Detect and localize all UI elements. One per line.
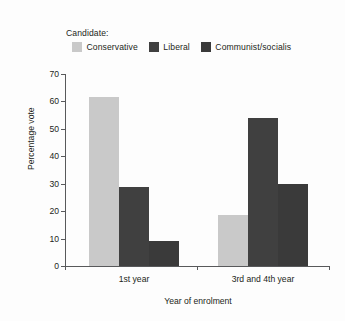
x-label-1st-year: 1st year <box>119 274 150 284</box>
bar-3rd-4th-year-communist-socialist <box>278 184 308 266</box>
y-tick-label-60: 60 <box>49 96 59 106</box>
legend-entry-communist-socialist: Communist/socialis <box>201 42 291 52</box>
legend-swatch-liberal <box>149 42 159 52</box>
bar-chart-figure: Candidate: Conservative Liberal Communis… <box>0 0 345 321</box>
y-axis-spine <box>65 74 66 267</box>
x-tick-middle <box>197 266 198 270</box>
legend-entry-liberal: Liberal <box>149 42 190 52</box>
legend-swatch-communist-socialist <box>201 42 211 52</box>
x-label-3rd-4th-year: 3rd and 4th year <box>232 274 295 284</box>
x-axis-title: Year of enrolment <box>66 296 330 306</box>
x-tick-start <box>65 266 66 270</box>
legend-entries: Conservative Liberal Communist/socialis <box>72 42 345 52</box>
bar-1st-year-conservative <box>89 97 119 266</box>
y-tick-label-70: 70 <box>49 69 59 79</box>
y-tick-label-10: 10 <box>49 234 59 244</box>
y-axis-title: Percentage vote <box>26 107 36 170</box>
legend-label-conservative: Conservative <box>87 42 138 52</box>
y-tick-label-0: 0 <box>54 261 59 271</box>
bar-1st-year-liberal <box>119 187 149 267</box>
y-tick-label-30: 30 <box>49 179 59 189</box>
legend-entry-conservative: Conservative <box>72 42 138 52</box>
x-tick-end <box>329 266 330 270</box>
y-tick-label-40: 40 <box>49 151 59 161</box>
chart-legend: Candidate: Conservative Liberal Communis… <box>66 28 345 52</box>
bar-3rd-4th-year-liberal <box>248 118 278 266</box>
legend-label-communist-socialist: Communist/socialis <box>215 42 291 52</box>
legend-label-liberal: Liberal <box>163 42 190 52</box>
bar-3rd-4th-year-conservative <box>218 215 248 266</box>
bar-1st-year-communist-socialist <box>149 241 179 266</box>
y-tick-label-50: 50 <box>49 124 59 134</box>
legend-title: Candidate: <box>66 28 345 38</box>
plot-area: 70 60 50 40 30 20 10 0 <box>66 74 330 266</box>
y-tick-label-20: 20 <box>49 206 59 216</box>
legend-swatch-conservative <box>72 42 82 52</box>
